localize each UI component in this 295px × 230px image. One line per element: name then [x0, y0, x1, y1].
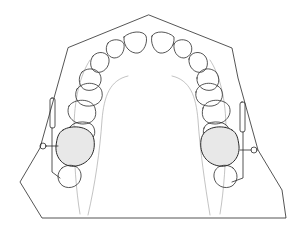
- tooth-molar-left-1: [68, 100, 96, 124]
- dental-cast-drawing: [0, 0, 295, 230]
- tooth-incisor-right-lateral: [174, 40, 192, 58]
- tooth-incisor-left-central: [124, 32, 147, 53]
- left-molar-appliance: [40, 98, 94, 188]
- teeth: [68, 32, 230, 142]
- tooth-incisor-right-central: [151, 32, 174, 53]
- tooth-incisor-left-lateral: [106, 40, 124, 58]
- dental-illustration: [0, 0, 295, 230]
